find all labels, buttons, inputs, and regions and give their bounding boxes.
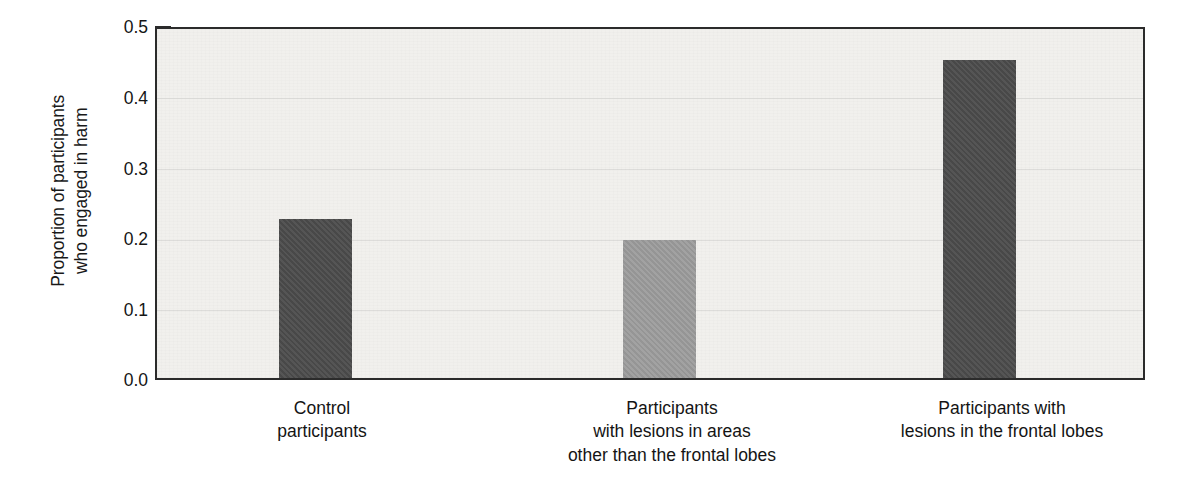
y-tick-label-0.0: 0.0 (100, 372, 148, 390)
x-category-label-frontal-lobes: Participants with lesions in the frontal… (842, 397, 1162, 444)
x-category-label-other-areas-line-3: other than the frontal lobes (522, 444, 822, 467)
x-category-label-other-areas-line-1: Participants (522, 397, 822, 420)
y-tick-label-0.1: 0.1 (100, 302, 148, 320)
x-category-label-control-line-2: participants (212, 420, 432, 443)
y-axis-tick-labels: 0.5 0.4 0.3 0.2 0.1 0.0 (96, 0, 148, 400)
y-tick-label-0.5: 0.5 (100, 19, 148, 37)
y-tick-label-0.3: 0.3 (100, 161, 148, 179)
x-category-label-frontal-lobes-line-2: lesions in the frontal lobes (842, 420, 1162, 443)
x-category-label-other-areas: Participants with lesions in areas other… (522, 397, 822, 467)
bar-lesions-other-areas (623, 240, 696, 378)
plot-area (155, 27, 1145, 380)
x-category-label-control-line-1: Control (212, 397, 432, 420)
bar-lesions-frontal-lobes (943, 60, 1016, 378)
y-axis-title-line-2: who engaged in harm (70, 21, 93, 361)
bar-chart-figure: Proportion of participants who engaged i… (0, 0, 1203, 488)
y-axis-title-line-1: Proportion of participants (47, 21, 70, 361)
bar-control-participants (279, 219, 352, 378)
y-tick-label-0.4: 0.4 (100, 90, 148, 108)
y-tick-label-0.2: 0.2 (100, 231, 148, 249)
x-category-label-other-areas-line-2: with lesions in areas (522, 420, 822, 443)
x-category-label-control: Control participants (212, 397, 432, 444)
x-category-label-frontal-lobes-line-1: Participants with (842, 397, 1162, 420)
